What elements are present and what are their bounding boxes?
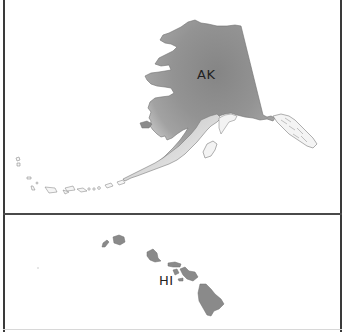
alaska-inset: AK bbox=[5, 0, 340, 213]
bottom-edge bbox=[3, 329, 342, 330]
alaska-shape bbox=[5, 0, 340, 213]
alaska-label: AK bbox=[197, 67, 215, 82]
hawaii-label: HI bbox=[159, 273, 174, 288]
hawaii-inset: HI bbox=[5, 215, 340, 332]
